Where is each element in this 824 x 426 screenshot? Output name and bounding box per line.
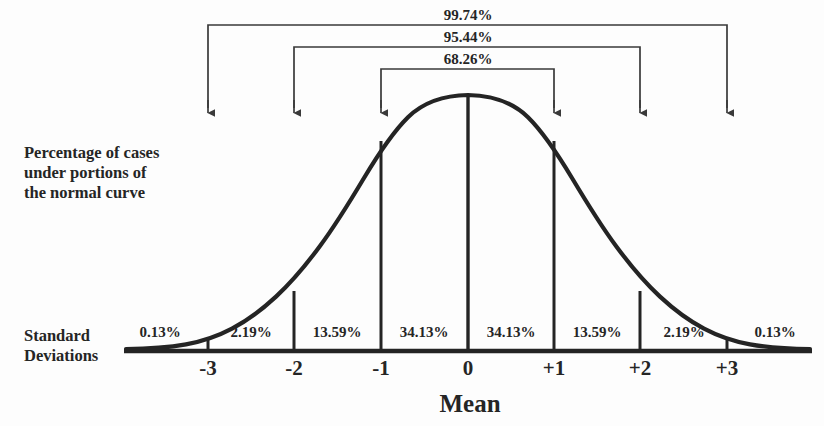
normal-curve-figure: 99.74% 95.44% 68.26% 0.13% 2.19% 13.59% … xyxy=(0,0,824,426)
x-tick-minus1: -1 xyxy=(372,356,390,380)
side-caption-line-2: under portions of xyxy=(24,163,147,182)
sd-line-group xyxy=(208,95,727,351)
band-label-6: 2.19% xyxy=(663,324,704,340)
x-tick-plus3: +3 xyxy=(716,356,738,380)
axis-caption-line-1: Standard xyxy=(24,326,90,345)
band-label-1: 2.19% xyxy=(230,324,271,340)
band-label-4: 34.13% xyxy=(487,324,536,340)
bracket-label-99: 99.74% xyxy=(444,7,493,23)
mean-title: Mean xyxy=(439,390,500,417)
x-tick-plus2: +2 xyxy=(629,356,651,380)
side-caption: Percentage of cases under portions of th… xyxy=(24,143,160,202)
bracket-label-95: 95.44% xyxy=(444,29,493,45)
side-caption-line-1: Percentage of cases xyxy=(24,143,160,162)
x-tick-plus1: +1 xyxy=(543,356,565,380)
band-label-7: 0.13% xyxy=(754,324,795,340)
x-tick-minus3: -3 xyxy=(199,356,217,380)
band-label-0: 0.13% xyxy=(139,324,180,340)
x-tick-minus2: -2 xyxy=(285,356,303,380)
x-tick-label-group: -3 -2 -1 0 +1 +2 +3 xyxy=(199,356,738,380)
axis-caption: Standard Deviations xyxy=(24,326,99,365)
bracket-label-68: 68.26% xyxy=(444,51,493,67)
x-tick-zero: 0 xyxy=(463,356,474,380)
figure-canvas: 99.74% 95.44% 68.26% 0.13% 2.19% 13.59% … xyxy=(0,0,824,426)
band-label-2: 13.59% xyxy=(313,324,362,340)
band-label-3: 34.13% xyxy=(400,324,449,340)
side-caption-line-3: the normal curve xyxy=(24,183,145,202)
axis-caption-line-2: Deviations xyxy=(24,346,99,365)
band-label-5: 13.59% xyxy=(573,324,622,340)
